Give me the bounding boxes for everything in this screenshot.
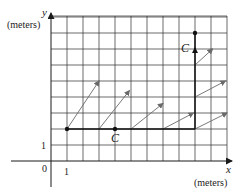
- vector-arrow: [99, 91, 129, 129]
- path-label-bottom: C: [111, 131, 120, 145]
- x-axis-unit: (meters): [194, 177, 227, 189]
- x-tick-label-1: 1: [64, 166, 69, 177]
- path-label-right: C: [181, 41, 190, 55]
- origin-label: 0: [42, 163, 47, 174]
- y-axis-unit: (meters): [7, 19, 40, 31]
- grid-lines: [51, 16, 227, 161]
- path-point-dot: [193, 31, 197, 35]
- path-point-dot: [65, 127, 69, 131]
- vector-arrow: [163, 113, 193, 129]
- vector-field-diagram: y (meters) x (meters) 0 1 1 C C: [0, 0, 243, 196]
- x-axis-label: x: [225, 163, 231, 175]
- vector-arrow: [195, 81, 225, 97]
- y-tick-label-1: 1: [41, 140, 46, 151]
- y-axis-label: y: [41, 6, 47, 18]
- vector-arrow: [195, 49, 213, 65]
